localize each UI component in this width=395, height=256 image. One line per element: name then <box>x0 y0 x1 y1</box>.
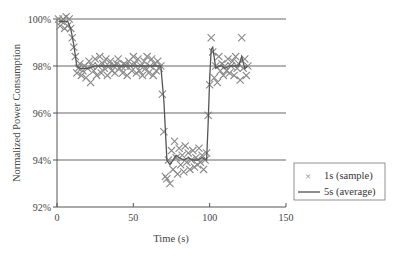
x-tick-label: 50 <box>128 212 138 223</box>
sample-markers <box>55 13 252 187</box>
x-tick-label: 100 <box>202 212 217 223</box>
legend-sample-label: 1s (sample) <box>324 170 373 182</box>
legend-average-label: 5s (average) <box>324 186 376 198</box>
sample-marker <box>139 72 146 79</box>
sample-marker <box>243 72 250 79</box>
legend-sample-icon: × <box>305 170 311 182</box>
sample-marker <box>174 171 181 178</box>
sample-marker <box>238 34 245 41</box>
average-line <box>59 21 248 164</box>
sample-marker <box>154 58 161 65</box>
sample-marker <box>220 72 227 79</box>
x-axis-title: Time (s) <box>153 233 189 245</box>
sample-marker <box>160 128 167 135</box>
sample-marker <box>200 166 207 173</box>
sample-marker <box>166 180 173 187</box>
sample-marker <box>85 58 92 65</box>
y-tick-label: 100% <box>28 14 51 25</box>
sample-marker <box>182 142 189 149</box>
sample-marker <box>176 145 183 152</box>
power-consumption-chart: 92%94%96%98%100% 050100150 Time (s) Norm… <box>0 0 395 256</box>
y-tick-label: 94% <box>33 155 51 166</box>
legend: × 1s (sample) 5s (average) <box>294 163 385 200</box>
sample-marker <box>237 77 244 84</box>
sample-marker <box>162 173 169 180</box>
sample-marker <box>232 53 239 60</box>
sample-marker <box>171 138 178 145</box>
sample-marker <box>211 74 218 81</box>
sample-marker <box>140 58 147 65</box>
x-tick-label: 150 <box>279 212 294 223</box>
x-axis-ticks: 050100150 <box>55 203 294 223</box>
sample-marker <box>87 79 94 86</box>
sample-marker <box>215 53 222 60</box>
y-tick-label: 98% <box>33 61 51 72</box>
sample-marker <box>159 91 166 98</box>
y-tick-label: 92% <box>33 202 51 213</box>
sample-marker <box>214 79 221 86</box>
sample-marker <box>168 147 175 154</box>
y-axis-ticks: 92%94%96%98%100% <box>28 14 57 213</box>
y-tick-label: 96% <box>33 108 51 119</box>
y-axis-title: Normalized Power Consumption <box>11 43 22 182</box>
sample-marker <box>195 145 202 152</box>
sample-marker <box>208 34 215 41</box>
x-tick-label: 0 <box>55 212 60 223</box>
sample-marker <box>163 175 170 182</box>
sample-marker <box>180 168 187 175</box>
sample-marker <box>177 161 184 168</box>
